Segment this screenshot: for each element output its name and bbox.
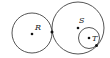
center-r-point: [31, 33, 34, 36]
center-t-point: [88, 37, 91, 40]
label-s: S: [79, 16, 85, 25]
label-r: R: [34, 23, 41, 32]
tangent-circles-diagram: R S T: [0, 0, 110, 58]
tangent-point-st: [95, 44, 98, 47]
label-t: T: [92, 34, 98, 43]
center-s-point: [77, 27, 80, 30]
tangent-point-rs: [51, 31, 54, 34]
